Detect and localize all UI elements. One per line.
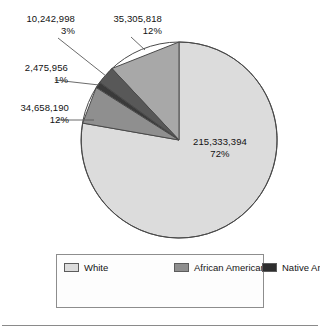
pie-chart-figure: 10,242,998 3% 35,305,818 12% 2,475,956 1… bbox=[0, 0, 320, 333]
chart-legend: White African American Native American A… bbox=[56, 254, 264, 308]
legend-label-african-american: African American bbox=[194, 262, 266, 273]
slice-percent-hispanic: 12% bbox=[88, 25, 162, 37]
legend-label-white: White bbox=[84, 262, 108, 273]
slice-value-african: 34,658,190 bbox=[0, 102, 69, 114]
legend-item-native-american: Native American bbox=[262, 260, 320, 275]
slice-percent-african: 12% bbox=[0, 114, 69, 126]
slice-label-hispanic: 35,305,818 12% bbox=[88, 13, 162, 36]
legend-swatch-white bbox=[64, 263, 79, 272]
page-divider-rule bbox=[2, 325, 318, 326]
slice-percent-white: 72% bbox=[180, 148, 260, 160]
slice-value-native: 2,475,956 bbox=[0, 62, 68, 74]
slice-percent-native: 1% bbox=[0, 74, 68, 86]
legend-swatch-african-american bbox=[174, 263, 189, 272]
slice-value-white: 215,333,394 bbox=[180, 136, 260, 148]
slice-label-african-american: 34,658,190 12% bbox=[0, 102, 69, 125]
slice-label-native-american: 2,475,956 1% bbox=[0, 62, 68, 85]
slice-percent-asian: 3% bbox=[1, 25, 75, 37]
legend-swatch-native-american bbox=[262, 263, 277, 272]
slice-value-asian: 10,242,998 bbox=[1, 13, 75, 25]
legend-item-african-american: African American bbox=[174, 260, 262, 275]
legend-label-native-american: Native American bbox=[282, 262, 320, 273]
slice-label-white: 215,333,394 72% bbox=[180, 136, 260, 159]
slice-value-hispanic: 35,305,818 bbox=[88, 13, 162, 25]
leader-line-hispanic bbox=[131, 37, 145, 50]
legend-item-white: White bbox=[64, 260, 174, 275]
slice-label-asian-pacific-islander: 10,242,998 3% bbox=[1, 13, 75, 36]
